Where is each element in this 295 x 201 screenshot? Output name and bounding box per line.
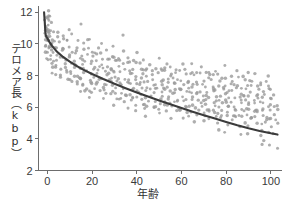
scatter-point xyxy=(145,75,148,78)
scatter-point xyxy=(250,80,253,83)
scatter-point xyxy=(182,117,185,120)
scatter-point xyxy=(126,56,129,59)
scatter-point xyxy=(231,80,234,83)
scatter-point xyxy=(270,125,273,128)
scatter-point xyxy=(81,63,84,66)
scatter-point xyxy=(112,45,115,48)
scatter-point xyxy=(232,83,235,86)
scatter-point xyxy=(87,47,90,50)
scatter-point xyxy=(250,116,253,119)
scatter-point xyxy=(140,98,143,101)
scatter-point xyxy=(173,88,176,91)
scatter-point xyxy=(275,104,279,108)
scatter-point xyxy=(118,98,121,101)
scatter-point xyxy=(55,59,58,62)
scatter-point xyxy=(215,99,218,102)
scatter-point xyxy=(102,97,105,100)
scatter-point xyxy=(198,90,201,93)
scatter-point xyxy=(226,111,229,114)
scatter-point xyxy=(202,94,205,97)
scatter-point xyxy=(167,97,170,100)
scatter-point xyxy=(55,54,58,57)
scatter-point xyxy=(151,78,154,81)
scatter-point xyxy=(145,104,149,108)
scatter-point xyxy=(98,65,101,68)
scatter-point xyxy=(96,68,99,71)
scatter-point xyxy=(51,72,54,75)
scatter-point xyxy=(59,76,62,79)
scatter-point xyxy=(247,94,250,97)
scatter-point xyxy=(155,87,158,90)
scatter-point xyxy=(224,77,228,81)
x-axis-title: 年齢 xyxy=(0,185,295,201)
scatter-point xyxy=(147,100,150,103)
scatter-point xyxy=(233,114,236,117)
scatter-point xyxy=(200,65,203,68)
scatter-point xyxy=(175,68,178,71)
scatter-point xyxy=(214,70,217,73)
scatter-point xyxy=(114,92,117,95)
scatter-point xyxy=(128,60,131,63)
scatter-point xyxy=(129,82,132,85)
scatter-point xyxy=(178,69,181,72)
scatter-point xyxy=(253,72,256,75)
scatter-point xyxy=(268,143,271,146)
scatter-point xyxy=(123,100,126,103)
scatter-point xyxy=(260,123,263,126)
scatter-point xyxy=(276,108,280,112)
scatter-point xyxy=(255,94,259,98)
scatter-point xyxy=(107,71,111,75)
y-tick-label: 4 xyxy=(26,133,32,145)
y-tick-label: 12 xyxy=(20,6,32,18)
scatter-point xyxy=(122,62,125,65)
scatter-point xyxy=(138,61,141,64)
scatter-point xyxy=(240,114,243,117)
scatter-point xyxy=(117,77,120,80)
scatter-point xyxy=(134,61,138,65)
scatter-point xyxy=(190,62,193,65)
scatter-point xyxy=(262,139,265,142)
scatter-point xyxy=(108,57,111,60)
scatter-point xyxy=(179,79,182,82)
scatter-point xyxy=(130,98,133,101)
scatter-point xyxy=(120,92,123,95)
scatter-point xyxy=(49,29,52,32)
scatter-point xyxy=(187,87,190,90)
scatter-point xyxy=(212,73,215,76)
scatter-point xyxy=(173,81,177,85)
scatter-point xyxy=(143,80,146,83)
scatter-point xyxy=(74,52,77,55)
scatter-point xyxy=(182,83,185,86)
scatter-point xyxy=(185,72,188,75)
scatter-point xyxy=(230,89,233,92)
axes-layer xyxy=(35,6,282,174)
scatter-point xyxy=(66,39,69,42)
scatter-point xyxy=(54,64,57,67)
scatter-point xyxy=(244,98,247,101)
scatter-point xyxy=(263,93,266,96)
scatter-point xyxy=(111,90,114,93)
scatter-point xyxy=(249,90,252,93)
scatter-point xyxy=(174,71,177,74)
scatter-point xyxy=(261,143,264,146)
scatter-point xyxy=(45,16,48,19)
scatter-point xyxy=(218,79,221,82)
scatter-point xyxy=(259,83,262,86)
y-tick-labels: 24681012 xyxy=(20,6,32,176)
scatter-point xyxy=(144,89,147,92)
scatter-point xyxy=(158,57,161,60)
scatter-point xyxy=(122,49,126,53)
scatter-point xyxy=(54,73,57,76)
scatter-point xyxy=(274,119,277,122)
scatter-point xyxy=(169,66,172,69)
scatter-point xyxy=(93,87,96,90)
scatter-point xyxy=(184,98,187,101)
scatter-point xyxy=(225,100,229,104)
scatter-point xyxy=(161,91,164,94)
scatter-point xyxy=(100,42,103,45)
scatter-point xyxy=(159,102,162,105)
scatter-point xyxy=(217,128,221,132)
scatter-point xyxy=(70,80,73,83)
scatter-point xyxy=(151,69,154,72)
scatter-point xyxy=(242,94,245,97)
